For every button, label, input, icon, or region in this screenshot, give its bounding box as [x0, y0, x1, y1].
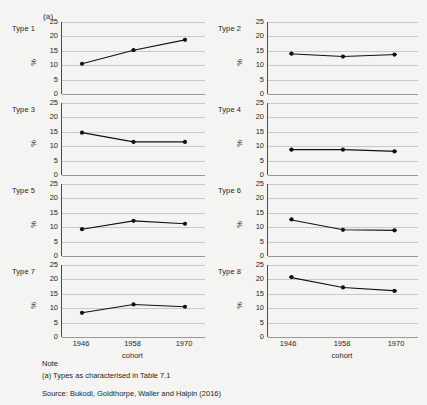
chart-panel: Type 7%2520151050194619581970cohort	[0, 265, 213, 345]
panel-type-label: Type 7	[12, 267, 35, 276]
y-tick-label: 10	[50, 142, 58, 150]
chart-panel: Type 2%2520151050	[213, 22, 426, 102]
data-point	[80, 62, 84, 66]
x-tick-label: 1970	[176, 339, 193, 348]
plot-area	[267, 22, 418, 94]
y-tick-label: 5	[260, 157, 264, 165]
y-tick-label: 25	[256, 99, 264, 107]
y-tick-group: 2520151050	[42, 184, 58, 256]
data-point	[392, 228, 396, 232]
series-markers	[268, 103, 418, 175]
plot-area	[61, 103, 205, 175]
y-tick-label: 25	[256, 18, 264, 26]
series-markers	[268, 184, 418, 256]
y-tick-label: 0	[260, 252, 264, 260]
y-tick-label: 20	[256, 195, 264, 203]
gridline	[62, 175, 205, 176]
y-tick-group: 2520151050	[42, 103, 58, 175]
data-point	[289, 217, 293, 221]
chart-panel: Type 8%2520151050194619581970cohort	[213, 265, 426, 345]
panel-grid: Type 1%2520151050Type 2%2520151050Type 3…	[0, 22, 427, 340]
plot-area	[61, 184, 205, 256]
x-tick-label: 1946	[73, 339, 90, 348]
y-tick-label: 0	[54, 171, 58, 179]
gridline	[268, 337, 418, 338]
plot-area	[61, 22, 205, 94]
gridline	[62, 337, 205, 338]
y-tick-label: 15	[50, 209, 58, 217]
data-point	[80, 227, 84, 231]
y-tick-label: 10	[50, 61, 58, 69]
data-point	[131, 48, 135, 52]
y-axis-label: %	[235, 221, 244, 228]
y-tick-label: 0	[260, 333, 264, 341]
data-point	[80, 311, 84, 315]
data-point	[183, 222, 187, 226]
y-tick-label: 10	[50, 223, 58, 231]
series-markers	[268, 265, 418, 337]
x-tick-label: 1958	[124, 339, 141, 348]
figure-root: (a) Type 1%2520151050Type 2%2520151050Ty…	[0, 0, 427, 405]
panel-type-label: Type 5	[12, 186, 35, 195]
plot-area	[61, 265, 205, 337]
y-tick-label: 15	[256, 209, 264, 217]
y-tick-label: 25	[50, 99, 58, 107]
data-point	[289, 275, 293, 279]
y-tick-label: 20	[256, 276, 264, 284]
chart-panel: Type 1%2520151050	[0, 22, 213, 102]
chart-panel: Type 6%2520151050	[213, 184, 426, 264]
y-axis-label: %	[235, 302, 244, 309]
y-tick-group: 2520151050	[42, 265, 58, 337]
y-tick-label: 5	[260, 238, 264, 246]
gridline	[62, 256, 205, 257]
y-tick-label: 15	[256, 290, 264, 298]
data-point	[183, 140, 187, 144]
data-point	[341, 228, 345, 232]
y-tick-group: 2520151050	[248, 265, 264, 337]
y-tick-label: 20	[256, 33, 264, 41]
y-axis-label: %	[29, 221, 38, 228]
y-tick-label: 25	[50, 180, 58, 188]
data-point	[131, 219, 135, 223]
panel-type-label: Type 2	[218, 24, 241, 33]
data-point	[80, 131, 84, 135]
y-axis-label: %	[29, 140, 38, 147]
figure-footer: Note (a) Types as characterised in Table…	[42, 358, 382, 400]
y-tick-label: 5	[260, 76, 264, 84]
y-tick-label: 0	[260, 171, 264, 179]
series-markers	[62, 103, 205, 175]
plot-area	[267, 184, 418, 256]
y-tick-label: 25	[256, 261, 264, 269]
y-tick-label: 10	[256, 142, 264, 150]
y-tick-label: 0	[54, 333, 58, 341]
y-tick-label: 5	[54, 76, 58, 84]
y-tick-label: 10	[256, 223, 264, 231]
y-tick-group: 2520151050	[42, 22, 58, 94]
plot-area	[267, 103, 418, 175]
y-tick-label: 15	[50, 47, 58, 55]
y-tick-label: 20	[256, 114, 264, 122]
series-markers	[268, 22, 418, 94]
panel-type-label: Type 8	[218, 267, 241, 276]
plot-area	[267, 265, 418, 337]
y-tick-label: 15	[50, 128, 58, 136]
y-tick-label: 0	[54, 252, 58, 260]
series-markers	[62, 265, 205, 337]
x-tick-group: 194619581970	[267, 339, 417, 351]
x-tick-group: 194619581970	[61, 339, 204, 351]
data-point	[392, 52, 396, 56]
gridline	[268, 256, 418, 257]
y-tick-label: 25	[50, 261, 58, 269]
y-tick-label: 10	[50, 304, 58, 312]
y-tick-label: 0	[260, 90, 264, 98]
y-tick-label: 20	[50, 33, 58, 41]
note-heading: Note	[42, 358, 382, 370]
chart-panel: Type 5%2520151050	[0, 184, 213, 264]
panel-type-label: Type 1	[12, 24, 35, 33]
y-axis-label: %	[29, 59, 38, 66]
x-tick-label: 1958	[334, 339, 351, 348]
y-tick-label: 15	[256, 47, 264, 55]
x-tick-label: 1946	[280, 339, 297, 348]
y-tick-label: 20	[50, 276, 58, 284]
data-point	[341, 148, 345, 152]
